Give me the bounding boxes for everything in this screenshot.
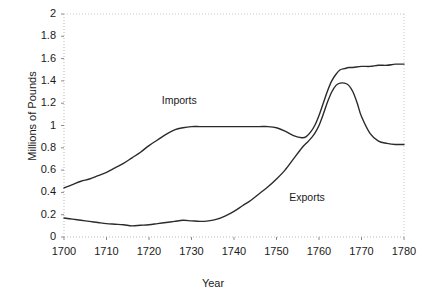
y-tick-label: 1.4 (0, 75, 56, 86)
chart-figure: Millions of Pounds Year 00.20.40.60.811.… (0, 0, 426, 299)
x-axis-title: Year (0, 277, 426, 289)
y-tick-label: 1.2 (0, 97, 56, 108)
y-tick-label: 1.6 (0, 53, 56, 64)
y-tick-label: 0.6 (0, 164, 56, 175)
y-tick-label: 0.8 (0, 142, 56, 153)
x-tick-label: 1700 (41, 246, 87, 257)
x-tick-label: 1770 (339, 246, 385, 257)
x-tick-label: 1760 (296, 246, 342, 257)
x-tick-label: 1730 (169, 246, 215, 257)
x-tick-label: 1780 (381, 246, 426, 257)
x-tick-label: 1720 (126, 246, 172, 257)
x-tick-label: 1750 (254, 246, 300, 257)
series-label-imports: Imports (162, 94, 197, 106)
y-tick-label: 0.4 (0, 186, 56, 197)
x-tick-label: 1710 (84, 246, 130, 257)
x-tick-label: 1740 (211, 246, 257, 257)
data-series-group (64, 64, 404, 226)
y-tick-label: 1 (0, 120, 56, 131)
y-tick-label: 0 (0, 231, 56, 242)
y-tick-label: 0.2 (0, 209, 56, 220)
series-label-exports: Exports (289, 191, 325, 203)
y-tick-label: 2 (0, 8, 56, 19)
series-line-imports (64, 64, 404, 188)
series-line-exports (64, 83, 404, 226)
y-tick-label: 1.8 (0, 30, 56, 41)
